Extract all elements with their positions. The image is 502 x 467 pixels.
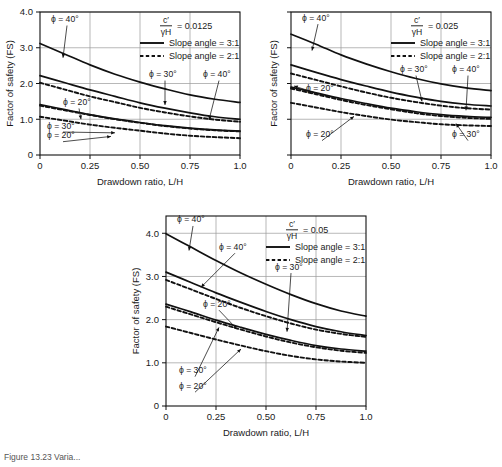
ratio-value: = 0.025: [428, 21, 458, 31]
phi-annotation: ϕ = 40°: [452, 64, 480, 74]
x-tick-label: 0.50: [131, 160, 150, 171]
x-tick-label: 0: [37, 160, 42, 171]
phi-annotation: ϕ = 20°: [306, 83, 334, 93]
phi-annotation: ϕ = 20°: [179, 381, 207, 391]
chart-panel-c: 00.250.500.751.001.02.03.04.0Drawdown ra…: [126, 202, 377, 452]
phi-annotation: ϕ = 40°: [51, 14, 79, 24]
y-axis-label: Factor of safety (FS): [268, 40, 279, 127]
x-tick-label: 0: [163, 411, 168, 422]
x-tick-label: 1.0: [233, 160, 246, 171]
x-axis-label: Drawdown ratio, L/H: [348, 176, 434, 187]
phi-annotation: ϕ = 20°: [63, 97, 91, 107]
x-tick-label: 0.75: [432, 160, 451, 171]
y-axis-label: Factor of safety (FS): [130, 268, 141, 355]
chart-a-svg: 00.250.500.751.001.02.03.04.0Drawdown ra…: [0, 0, 251, 196]
y-tick-label: 1.0: [20, 114, 33, 125]
legend-label-solid: Slope angle = 3:1: [169, 38, 239, 48]
y-tick-label: 3.0: [146, 271, 159, 282]
phi-annotation: ϕ = 30°: [400, 64, 428, 74]
ratio-numerator: c′: [289, 219, 295, 229]
y-tick-label: 0: [28, 149, 33, 160]
legend-label-dashed: Slope angle = 2:1: [420, 51, 490, 61]
legend-label-dashed: Slope angle = 2:1: [169, 51, 239, 61]
chart-panel-b: 00.250.500.751.0Drawdown ratio, L/HFacto…: [251, 0, 502, 196]
chart-c-svg: 00.250.500.751.001.02.03.04.0Drawdown ra…: [126, 202, 377, 452]
x-tick-label: 0.75: [181, 160, 200, 171]
x-tick-label: 1.0: [359, 411, 372, 422]
y-tick-label: 0: [154, 400, 159, 411]
phi-annotation: ϕ = 20°: [47, 130, 75, 140]
phi-annotation: ϕ = 20°: [306, 129, 334, 139]
x-tick-label: 0.25: [81, 160, 100, 171]
x-tick-label: 0.75: [307, 411, 326, 422]
y-tick-label: 2.0: [146, 314, 159, 325]
phi-annotation: ϕ = 20°: [203, 299, 231, 309]
x-tick-label: 0.25: [332, 160, 351, 171]
y-axis-label: Factor of safety (FS): [4, 40, 15, 127]
phi-annotation: ϕ = 30°: [179, 365, 207, 375]
chart-panel-a: 00.250.500.751.001.02.03.04.0Drawdown ra…: [0, 0, 251, 196]
figure-caption: Figure 13.23 Varia...: [4, 452, 80, 462]
phi-annotation: ϕ = 30°: [47, 121, 75, 131]
y-tick-label: 4.0: [146, 228, 159, 239]
y-tick-label: 3.0: [20, 42, 33, 53]
y-tick-label: 4.0: [20, 6, 33, 17]
chart-b-svg: 00.250.500.751.0Drawdown ratio, L/HFacto…: [251, 0, 502, 196]
ratio-value: = 0.05: [303, 225, 328, 235]
legend-label-solid: Slope angle = 3:1: [295, 242, 365, 252]
x-tick-label: 1.0: [484, 160, 497, 171]
ratio-denominator: γH: [161, 27, 172, 37]
legend-label-solid: Slope angle = 3:1: [420, 38, 490, 48]
y-tick-label: 1.0: [146, 357, 159, 368]
ratio-denominator: γH: [412, 27, 423, 37]
x-tick-label: 0.25: [207, 411, 226, 422]
ratio-numerator: c′: [414, 15, 420, 25]
legend-label-dashed: Slope angle = 2:1: [295, 255, 365, 265]
phi-annotation: ϕ = 30°: [275, 262, 303, 272]
phi-annotation: ϕ = 40°: [219, 242, 247, 252]
x-tick-label: 0: [288, 160, 293, 171]
x-tick-label: 0.50: [257, 411, 276, 422]
phi-annotation: ϕ = 30°: [149, 69, 177, 79]
phi-annotation: ϕ = 40°: [302, 13, 330, 23]
ratio-value: = 0.0125: [177, 21, 212, 31]
x-axis-label: Drawdown ratio, L/H: [223, 427, 309, 438]
phi-annotation: ϕ = 40°: [177, 214, 205, 224]
x-tick-label: 0.50: [382, 160, 401, 171]
ratio-denominator: γH: [287, 231, 298, 241]
phi-annotation: ϕ = 40°: [203, 69, 231, 79]
y-tick-label: 2.0: [20, 78, 33, 89]
ratio-numerator: c′: [163, 15, 169, 25]
x-axis-label: Drawdown ratio, L/H: [97, 176, 183, 187]
